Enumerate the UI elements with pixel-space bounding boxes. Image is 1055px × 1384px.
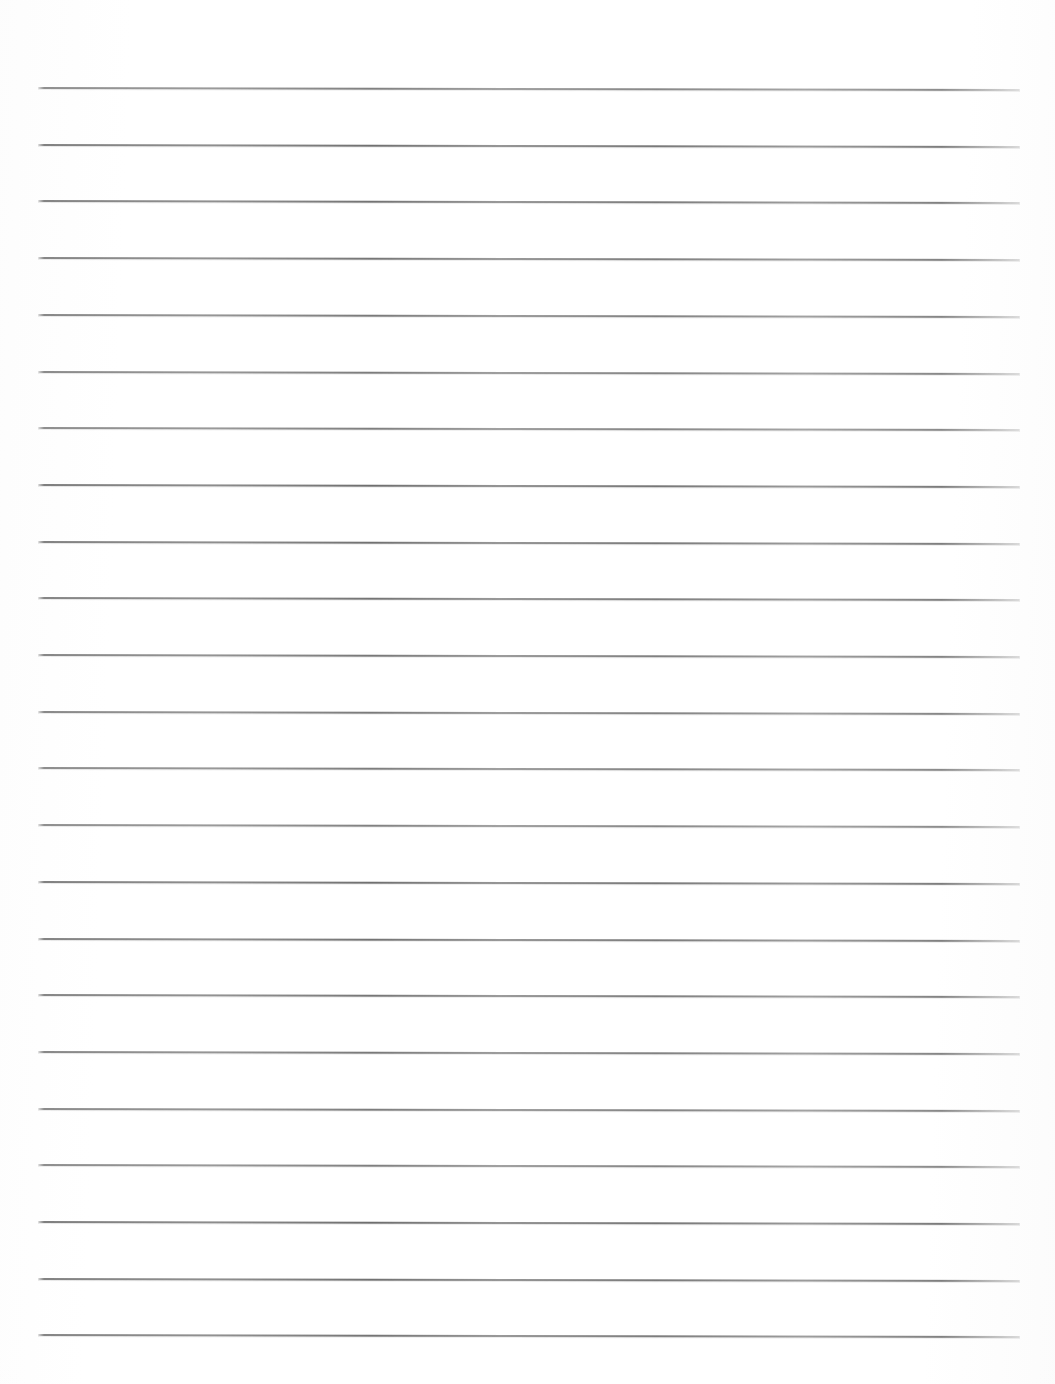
ruled-line	[38, 484, 1020, 488]
ruled-line	[38, 824, 1020, 828]
ruled-line	[38, 654, 1020, 658]
ruled-line	[38, 1278, 1020, 1282]
ruled-line	[38, 257, 1020, 261]
ruled-lines-layer	[0, 0, 1055, 1384]
ruled-line	[38, 200, 1020, 204]
ruled-line	[38, 597, 1020, 601]
ruled-line	[38, 427, 1020, 431]
ruled-line	[38, 314, 1020, 318]
ruled-line	[38, 994, 1020, 998]
ruled-line	[38, 938, 1020, 942]
ruled-line	[38, 541, 1020, 545]
ruled-line	[38, 371, 1020, 375]
ruled-line	[38, 87, 1020, 91]
ruled-line	[38, 1108, 1020, 1112]
ruled-line	[38, 1164, 1020, 1168]
scanned-page	[0, 0, 1055, 1384]
ruled-line	[38, 1221, 1020, 1225]
ruled-line	[38, 1051, 1020, 1055]
ruled-line	[38, 144, 1020, 148]
ruled-line	[38, 711, 1020, 715]
ruled-line	[38, 881, 1020, 885]
ruled-line	[38, 1334, 1020, 1338]
ruled-line	[38, 767, 1020, 771]
